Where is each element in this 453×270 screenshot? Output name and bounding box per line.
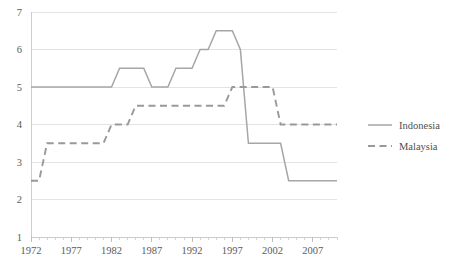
y-tick-label-6: 6 — [17, 44, 22, 55]
chart-container: 1234567 19721977198219871992199720022007… — [0, 0, 453, 270]
x-tick-label-1992: 1992 — [182, 245, 203, 256]
legend-item-malaysia[interactable]: Malaysia — [368, 141, 438, 152]
chart-legend: IndonesiaMalaysia — [368, 120, 440, 152]
y-axis-tick-labels: 1234567 — [17, 7, 23, 243]
x-axis-tick-labels: 19721977198219871992199720022007 — [21, 245, 324, 256]
y-tick-label-5: 5 — [17, 82, 22, 93]
x-tick-label-2007: 2007 — [302, 245, 323, 256]
x-tick-label-1982: 1982 — [101, 245, 122, 256]
y-tick-label-3: 3 — [17, 157, 22, 168]
y-tick-label-2: 2 — [17, 194, 22, 205]
legend-item-indonesia[interactable]: Indonesia — [368, 120, 440, 131]
series-line-malaysia — [31, 87, 337, 181]
legend-label-malaysia: Malaysia — [399, 141, 438, 152]
x-tick-label-1972: 1972 — [21, 245, 42, 256]
x-tick-label-2002: 2002 — [262, 245, 283, 256]
y-tick-label-1: 1 — [17, 232, 22, 243]
x-tick-label-1987: 1987 — [141, 245, 162, 256]
legend-label-indonesia: Indonesia — [399, 120, 440, 131]
data-series — [31, 31, 337, 181]
y-tick-label-7: 7 — [17, 7, 22, 18]
line-chart: 1234567 19721977198219871992199720022007… — [0, 0, 453, 270]
x-tick-label-1977: 1977 — [61, 245, 82, 256]
y-tick-label-4: 4 — [17, 119, 23, 130]
x-tick-label-1997: 1997 — [222, 245, 243, 256]
x-axis — [31, 237, 337, 242]
